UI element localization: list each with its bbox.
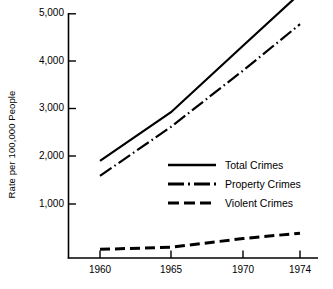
series-line-violent-crimes [100, 233, 300, 249]
legend-item-total-crimes: Total Crimes [168, 157, 301, 173]
legend-label: Property Crimes [225, 179, 301, 190]
legend-key-dash-dot-icon [168, 179, 216, 189]
legend-item-property-crimes: Property Crimes [168, 176, 301, 192]
legend-item-violent-crimes: Violent Crimes [168, 195, 301, 211]
legend: Total Crimes Property Crimes Violent Cri… [168, 157, 301, 214]
plot-area [0, 0, 333, 289]
legend-key-dashed-icon [168, 198, 216, 208]
series-line-total-crimes [100, 0, 300, 161]
series-line-property-crimes [100, 24, 300, 176]
legend-key-solid-icon [168, 160, 216, 170]
line-chart: Rate per 100,000 People 5,000 4,000 3,00… [0, 0, 333, 289]
legend-label: Violent Crimes [225, 198, 293, 209]
legend-label: Total Crimes [225, 160, 283, 171]
axis-lines [68, 13, 318, 259]
